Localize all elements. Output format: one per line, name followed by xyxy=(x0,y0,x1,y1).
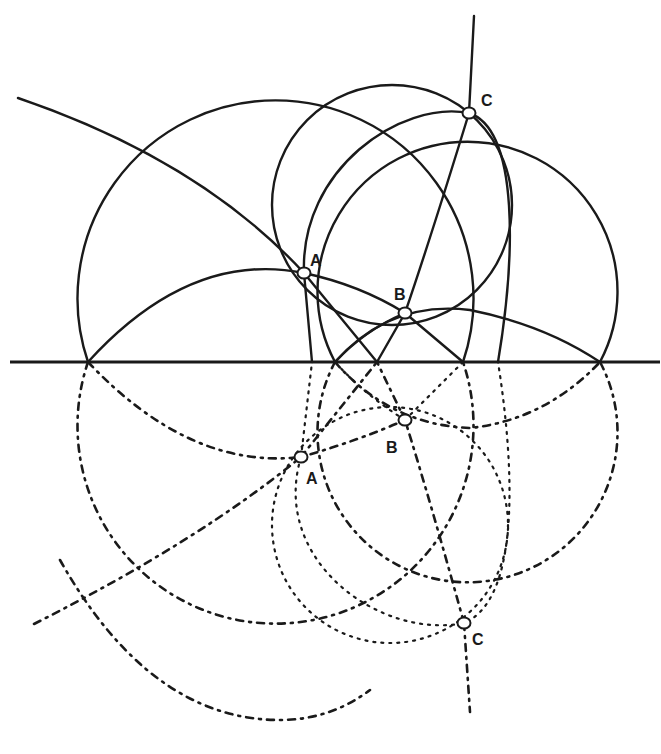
upper-point-a xyxy=(298,268,311,279)
mirror-line-c-b xyxy=(377,362,464,623)
lower-label-a: A xyxy=(306,470,318,487)
mirror-bottom-arc xyxy=(60,560,370,720)
upper-label-a: A xyxy=(310,252,322,269)
lower-point-b xyxy=(399,415,412,426)
long-curve xyxy=(18,98,377,362)
mirror-b-to-ground xyxy=(405,362,463,420)
geometry-diagram: ABC ABC xyxy=(0,0,661,754)
vertical-line xyxy=(469,16,474,113)
mirror-low-arc-left xyxy=(88,362,405,458)
mirror-vertical-line xyxy=(464,623,470,712)
low-arc-right xyxy=(335,309,600,362)
mirror-large-circle-arc xyxy=(78,362,474,624)
upper-point-b xyxy=(399,308,412,319)
mirror-a-to-ground xyxy=(301,362,312,457)
mirror-right-circle-arc xyxy=(318,362,618,582)
upper-label-c: C xyxy=(481,92,493,109)
small-circle xyxy=(272,85,512,325)
lower-label-b: B xyxy=(386,439,398,456)
mirror-long-curve xyxy=(34,362,377,624)
upper-point-c xyxy=(463,108,476,119)
upper-label-b: B xyxy=(394,286,406,303)
lower-point-c xyxy=(458,618,471,629)
lower-label-c: C xyxy=(472,631,484,648)
b-to-ground xyxy=(405,313,463,362)
lower-point-a xyxy=(295,452,308,463)
a-to-ground xyxy=(304,273,312,362)
mirror-circle-through-a-c xyxy=(296,362,510,625)
mirror-low-arc-right xyxy=(335,362,600,428)
low-arc-left xyxy=(88,269,405,362)
